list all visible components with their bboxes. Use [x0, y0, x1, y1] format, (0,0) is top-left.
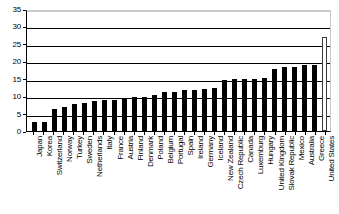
bar[interactable] [102, 100, 107, 131]
bar-slot [149, 11, 159, 131]
bar-slot [159, 11, 169, 131]
bar[interactable] [182, 90, 187, 131]
y-axis-tick-label: 30 [13, 23, 24, 31]
x-axis-tick-mark [295, 132, 296, 135]
x-axis-tick-mark [63, 132, 64, 135]
bar[interactable] [52, 109, 57, 131]
bar-slot [239, 11, 249, 131]
bar[interactable] [172, 92, 177, 131]
bar[interactable] [322, 37, 327, 131]
bar-slot [259, 11, 269, 131]
bar[interactable] [292, 67, 297, 131]
x-axis-tick: Australia [300, 132, 310, 214]
bar[interactable] [72, 104, 77, 131]
bar-slot [199, 11, 209, 131]
x-axis-tick: Canada [239, 132, 249, 214]
bar[interactable] [32, 122, 37, 131]
bar[interactable] [212, 88, 217, 131]
y-axis-tick-label: 25 [13, 41, 24, 49]
x-axis-tick-mark [264, 132, 265, 135]
x-axis-tick: Netherlands [88, 132, 98, 214]
y-axis-tick: 0 [17, 127, 26, 137]
x-axis-tick: Iceland [209, 132, 219, 214]
y-axis-tick: 5 [17, 110, 26, 120]
x-axis-tick-mark [83, 132, 84, 135]
x-axis-tick-mark [224, 132, 225, 135]
x-axis-tick-mark [124, 132, 125, 135]
x-axis-tick: Sweden [78, 132, 88, 214]
x-axis-tick-mark [275, 132, 276, 135]
bar[interactable] [302, 65, 307, 131]
y-axis-tick-label: 20 [13, 58, 24, 66]
bar[interactable] [42, 122, 47, 131]
x-axis-tick: Korea [38, 132, 48, 214]
bar[interactable] [142, 97, 147, 132]
bar-slot [229, 11, 239, 131]
x-axis-tick: Italy [98, 132, 108, 214]
x-axis-tick-mark [254, 132, 255, 135]
bar[interactable] [152, 95, 157, 131]
bar[interactable] [82, 103, 87, 131]
bar-slot [289, 11, 299, 131]
x-axis-tick: Czech Republic [229, 132, 239, 214]
x-axis-tick: New Zealand [219, 132, 229, 214]
x-axis-tick-mark [144, 132, 145, 135]
bar-slot [299, 11, 309, 131]
bar[interactable] [122, 99, 127, 131]
bar-slot [319, 11, 329, 131]
x-axis-tick: Luxemburg [249, 132, 259, 214]
bar[interactable] [112, 100, 117, 131]
bar-slot [169, 11, 179, 131]
x-axis-tick: Spain [179, 132, 189, 214]
bar-slot [189, 11, 199, 131]
bar-slot [219, 11, 229, 131]
bar[interactable] [252, 79, 257, 131]
bar[interactable] [242, 79, 247, 131]
x-axis-tick: Hungary [259, 132, 269, 214]
x-axis-tick: United Kingdom [270, 132, 280, 214]
bar-slot [119, 11, 129, 131]
bar[interactable] [202, 89, 207, 131]
bar-slot [99, 11, 109, 131]
x-axis-tick-mark [285, 132, 286, 135]
x-axis-tick: Denmark [139, 132, 149, 214]
x-axis-tick-mark [234, 132, 235, 135]
y-axis-tick-label: 35 [13, 6, 24, 14]
x-axis-tick: Belgium [159, 132, 169, 214]
bar[interactable] [132, 97, 137, 132]
x-axis-tick: Switzerland [48, 132, 58, 214]
x-axis-tick: Austria [119, 132, 129, 214]
bar[interactable] [192, 90, 197, 131]
x-axis-tick-mark [184, 132, 185, 135]
bar-slot [59, 11, 69, 131]
bar[interactable] [272, 69, 277, 131]
bar-slot [29, 11, 39, 131]
x-axis-tick: France [109, 132, 119, 214]
y-axis-tick: 20 [13, 57, 27, 67]
bar[interactable] [222, 80, 227, 131]
x-axis-tick-mark [315, 132, 316, 135]
bar[interactable] [312, 65, 317, 131]
x-axis-tick-mark [214, 132, 215, 135]
x-axis-tick-mark [204, 132, 205, 135]
x-axis-tick-mark [325, 132, 326, 135]
bar[interactable] [282, 67, 287, 131]
x-axis-tick-mark [53, 132, 54, 135]
y-axis-tick-label: 15 [13, 76, 24, 84]
bar-slot [209, 11, 219, 131]
bar[interactable] [232, 79, 237, 131]
bar-slot [309, 11, 319, 131]
bar[interactable] [162, 92, 167, 131]
bar[interactable] [92, 101, 97, 131]
x-axis-tick: Japan [28, 132, 38, 214]
bar-slot [269, 11, 279, 131]
x-axis-tick: Norway [58, 132, 68, 214]
bar[interactable] [262, 78, 267, 131]
x-axis-tick-mark [244, 132, 245, 135]
x-axis-tick: Slovak Republic [280, 132, 290, 214]
bar[interactable] [62, 107, 67, 131]
y-axis-tick: 30 [13, 22, 27, 32]
x-axis-tick: Greece [310, 132, 320, 214]
x-axis-tick-mark [93, 132, 94, 135]
y-axis-tick: 15 [13, 75, 27, 85]
